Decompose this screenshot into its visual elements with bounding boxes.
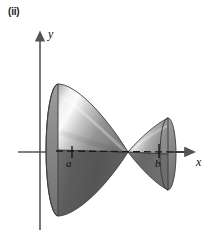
left-cone-solid xyxy=(46,84,128,216)
tick-label-b: b xyxy=(155,157,161,169)
cone-solid-of-revolution-figure xyxy=(0,0,218,236)
tick-label-a: a xyxy=(66,157,72,169)
right-cone-lower-surface xyxy=(128,152,168,190)
y-axis-label: y xyxy=(48,27,53,42)
figure-container: (ii) y x a b xyxy=(0,0,218,236)
part-label: (ii) xyxy=(8,6,19,17)
x-axis-label: x xyxy=(196,155,201,170)
right-cone-solid xyxy=(128,118,176,190)
